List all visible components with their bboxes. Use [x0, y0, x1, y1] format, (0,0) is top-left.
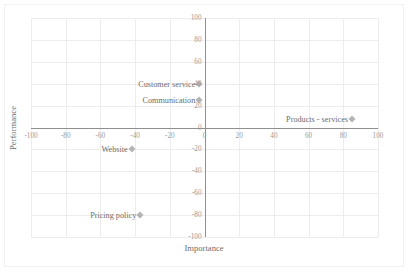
- x-tick-label: -40: [130, 132, 140, 140]
- x-tick-label: -20: [165, 132, 175, 140]
- point-label: Products - services: [286, 114, 348, 123]
- y-tick-label: -20: [192, 145, 202, 153]
- y-tick-label: 0: [198, 124, 202, 132]
- y-tick-label: 80: [194, 36, 201, 44]
- x-tick-label: 100: [373, 132, 384, 140]
- x-tick-label: -60: [96, 132, 106, 140]
- y-axis-title: Performance: [8, 106, 18, 150]
- point-label: Pricing policy: [90, 211, 136, 220]
- x-tick-label: 80: [340, 132, 347, 140]
- y-tick-label: 60: [194, 58, 201, 66]
- y-tick-label: 40: [194, 80, 201, 88]
- data-point-marker: [137, 212, 144, 219]
- point-label: Website: [101, 145, 127, 154]
- y-tick-label: -60: [192, 189, 202, 197]
- y-tick-label: 100: [191, 14, 202, 22]
- x-tick-label: 0: [203, 132, 207, 140]
- plot-area: [31, 18, 378, 237]
- x-tick-label: 20: [236, 132, 243, 140]
- y-tick-label: -80: [192, 211, 202, 219]
- y-tick-label: 20: [194, 102, 201, 110]
- x-axis-line: [31, 128, 378, 129]
- gridline-vertical: [378, 18, 379, 237]
- x-tick-label: -80: [61, 132, 71, 140]
- y-tick-label: -100: [188, 233, 201, 241]
- data-point-marker: [348, 115, 355, 122]
- x-tick-label: -100: [24, 132, 37, 140]
- y-tick-label: -40: [192, 167, 202, 175]
- x-tick-label: 40: [270, 132, 277, 140]
- chart-canvas: -100-80-60-40-20020406080100 10080604020…: [0, 0, 408, 271]
- x-tick-label: 60: [305, 132, 312, 140]
- point-label: Communication: [143, 96, 196, 105]
- gridline-horizontal: [31, 237, 378, 238]
- point-label: Customer service: [138, 79, 195, 88]
- data-point-marker: [128, 146, 135, 153]
- x-axis-title: Importance: [184, 243, 223, 253]
